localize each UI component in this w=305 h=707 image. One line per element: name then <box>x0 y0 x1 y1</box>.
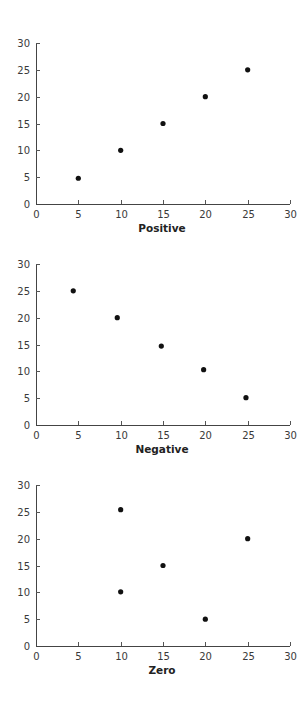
x-tick-label: 15 <box>157 430 170 441</box>
y-tick-label: 5 <box>24 393 30 404</box>
x-tick-label: 15 <box>157 651 170 662</box>
y-tick-label: 20 <box>17 313 30 324</box>
scatter-chart-negative: 051015202530051015202530Negative <box>0 256 305 461</box>
y-tick-label: 25 <box>17 65 30 76</box>
x-tick-label: 30 <box>284 209 297 220</box>
scatter-chart-zero: 051015202530051015202530Zero <box>0 477 305 682</box>
x-tick-label: 5 <box>75 209 81 220</box>
data-point <box>118 589 123 594</box>
x-tick-label: 20 <box>199 430 212 441</box>
x-tick-label: 10 <box>115 430 128 441</box>
data-point <box>203 617 208 622</box>
y-tick-label: 5 <box>24 172 30 183</box>
y-tick-label: 0 <box>24 199 30 210</box>
x-tick-label: 25 <box>242 430 255 441</box>
y-tick-label: 25 <box>17 507 30 518</box>
y-tick-label: 30 <box>17 259 30 270</box>
y-tick-label: 25 <box>17 286 30 297</box>
chart-title: Negative <box>135 443 188 455</box>
data-point <box>201 367 206 372</box>
data-point <box>71 288 76 293</box>
data-point <box>118 148 123 153</box>
data-point <box>118 507 123 512</box>
y-tick-label: 10 <box>17 587 30 598</box>
y-tick-label: 30 <box>17 38 30 49</box>
y-tick-label: 30 <box>17 480 30 491</box>
y-tick-label: 0 <box>24 641 30 652</box>
chart-svg: 051015202530051015202530Positive <box>0 35 305 240</box>
y-tick-label: 20 <box>17 92 30 103</box>
x-tick-label: 0 <box>33 209 39 220</box>
data-point <box>160 563 165 568</box>
x-tick-label: 25 <box>242 209 255 220</box>
chart-svg: 051015202530051015202530Negative <box>0 256 305 461</box>
chart-title: Zero <box>148 664 175 676</box>
y-tick-label: 15 <box>17 340 30 351</box>
x-tick-label: 20 <box>199 209 212 220</box>
y-tick-label: 15 <box>17 119 30 130</box>
y-tick-label: 10 <box>17 366 30 377</box>
x-tick-label: 10 <box>115 209 128 220</box>
data-point <box>76 176 81 181</box>
x-tick-label: 5 <box>75 430 81 441</box>
data-point <box>115 315 120 320</box>
x-tick-label: 25 <box>242 651 255 662</box>
data-point <box>243 395 248 400</box>
x-tick-label: 0 <box>33 651 39 662</box>
data-point <box>245 536 250 541</box>
chart-svg: 051015202530051015202530Zero <box>0 477 305 682</box>
y-tick-label: 10 <box>17 145 30 156</box>
y-tick-label: 0 <box>24 420 30 431</box>
x-tick-label: 30 <box>284 430 297 441</box>
y-tick-label: 20 <box>17 534 30 545</box>
x-tick-label: 15 <box>157 209 170 220</box>
x-tick-label: 10 <box>115 651 128 662</box>
x-tick-label: 0 <box>33 430 39 441</box>
y-tick-label: 15 <box>17 561 30 572</box>
data-point <box>245 67 250 72</box>
data-point <box>159 344 164 349</box>
data-point <box>203 94 208 99</box>
data-point <box>160 121 165 126</box>
chart-title: Positive <box>138 222 185 234</box>
x-tick-label: 20 <box>199 651 212 662</box>
y-tick-label: 5 <box>24 614 30 625</box>
x-tick-label: 30 <box>284 651 297 662</box>
x-tick-label: 5 <box>75 651 81 662</box>
scatter-chart-positive: 051015202530051015202530Positive <box>0 35 305 240</box>
